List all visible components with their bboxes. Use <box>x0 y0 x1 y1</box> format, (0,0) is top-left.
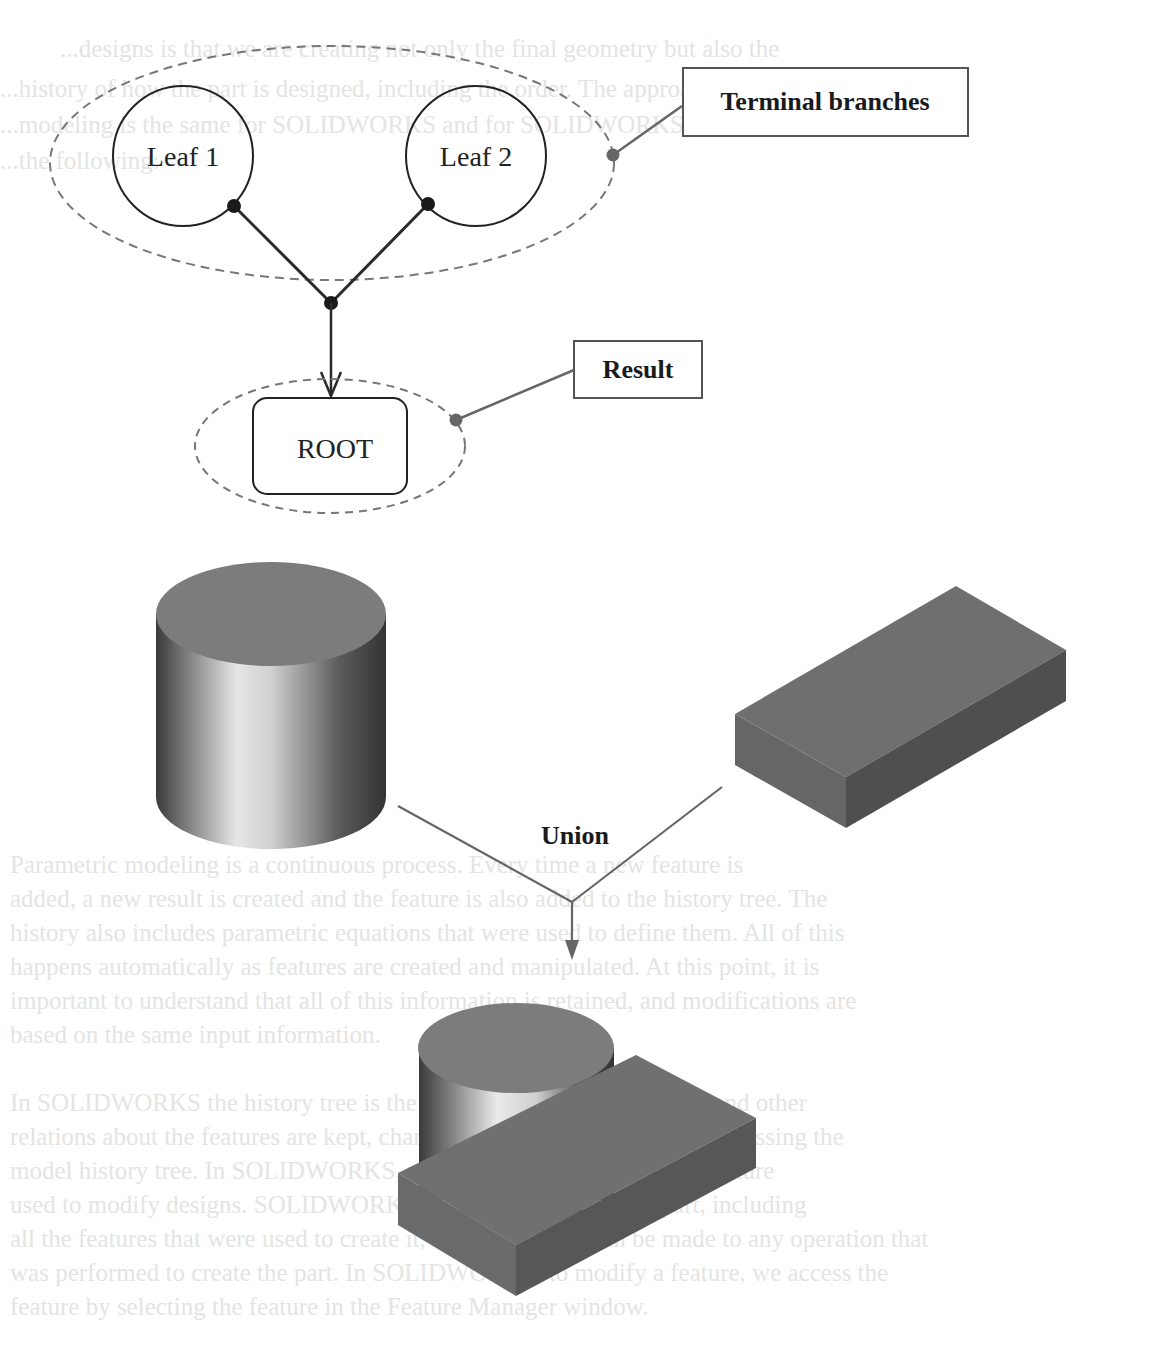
junction-dot-leaf1 <box>227 199 241 213</box>
union-arrow-head-icon <box>565 940 579 960</box>
leaf-1-label: Leaf 1 <box>147 141 219 172</box>
junction-dot-leaf2 <box>421 197 435 211</box>
figure-canvas: Leaf 1 Leaf 2 ROOT Terminal branches <box>0 0 1174 1347</box>
union-label: Union <box>541 821 609 850</box>
root-node: ROOT <box>253 398 407 494</box>
leaf-2-label: Leaf 2 <box>440 141 512 172</box>
callout-result-label: Result <box>603 355 674 384</box>
root-label: ROOT <box>297 433 373 464</box>
history-tree-diagram: Leaf 1 Leaf 2 ROOT Terminal branches <box>50 46 968 513</box>
callout-result: Result <box>450 341 703 427</box>
branch-line-left <box>234 206 331 303</box>
union-diagram: Union <box>156 562 1066 1296</box>
union-result-shape <box>398 1003 756 1296</box>
callout-terminal-branches: Terminal branches <box>607 68 969 162</box>
terminal-branches-group <box>50 46 614 280</box>
branch-line-right <box>331 204 428 303</box>
cylinder-shape <box>156 562 386 849</box>
callout-terminal-label: Terminal branches <box>720 87 929 116</box>
box-shape <box>735 586 1066 828</box>
